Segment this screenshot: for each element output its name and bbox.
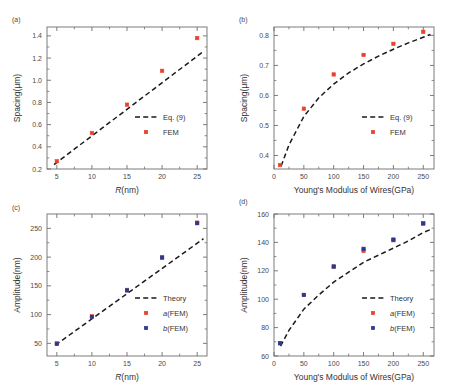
- panel-b: [227, 0, 454, 194]
- panel-d: [227, 194, 454, 388]
- figure-container: (a)5101520250.20.40.60.81.01.21.4R(nm)Sp…: [0, 0, 454, 388]
- panel-c: [0, 194, 227, 388]
- panel-a: [0, 0, 227, 194]
